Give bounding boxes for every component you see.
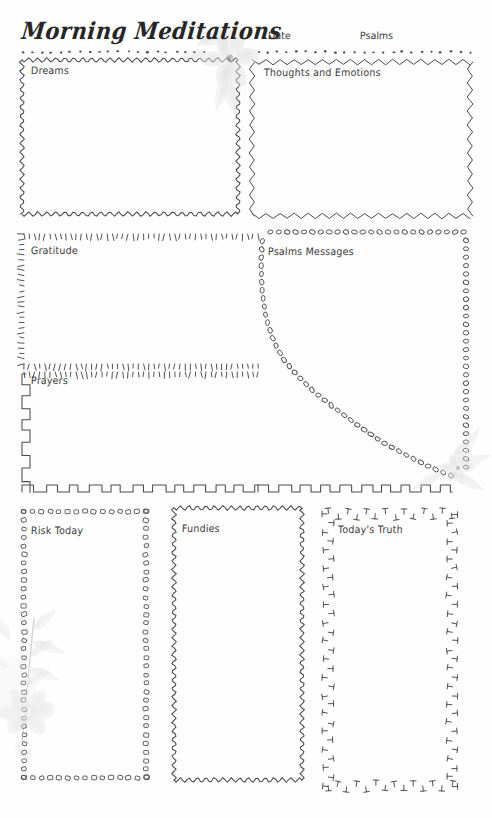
prayers-writing-area[interactable] <box>24 390 242 480</box>
section-label-thoughts-and-emotions: Thoughts and Emotions <box>264 67 381 79</box>
risk-today-writing-area[interactable] <box>24 540 146 778</box>
date-input[interactable] <box>265 26 345 48</box>
dreams-writing-area[interactable] <box>24 78 230 208</box>
page-title: Morning Meditations <box>21 17 284 45</box>
todays-truth-writing-area[interactable] <box>332 538 450 782</box>
fundies-writing-area[interactable] <box>176 538 298 778</box>
thoughts-and-emotions-writing-area[interactable] <box>258 82 466 208</box>
psalms-messages-writing-area[interactable] <box>262 260 460 460</box>
section-label-todays-truth: Today's Truth <box>338 524 403 536</box>
gratitude-writing-area[interactable] <box>24 258 242 356</box>
section-label-psalms-messages: Psalms Messages <box>268 246 354 258</box>
psalms-input[interactable] <box>356 26 446 48</box>
section-label-dreams: Dreams <box>31 65 70 77</box>
section-label-fundies: Fundies <box>182 523 220 535</box>
section-label-prayers: Prayers <box>31 375 68 387</box>
journal-page: Morning Meditations Date Psalms Dreams T… <box>0 0 492 818</box>
section-label-risk-today: Risk Today <box>31 525 84 537</box>
section-label-gratitude: Gratitude <box>31 245 78 257</box>
